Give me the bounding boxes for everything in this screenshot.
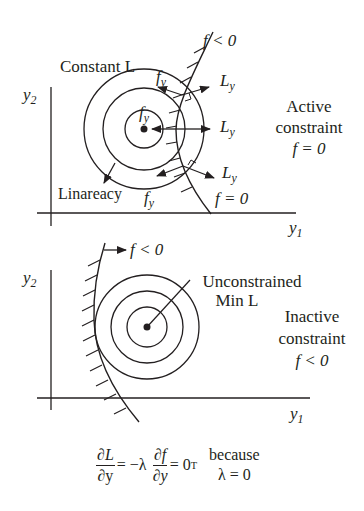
top-fy-label-lower: fy [144, 189, 154, 209]
bottom-axis-y-sub: 2 [31, 276, 37, 290]
Ly-sub: y [229, 125, 234, 139]
Ly-sub: y [231, 171, 236, 185]
fy-sub: y [144, 111, 149, 125]
bottom-min-leader-line [147, 280, 190, 327]
top-minimum-dot [141, 126, 148, 133]
top-axis-y-var: y [23, 85, 31, 104]
top-fy-label-upper: fy [156, 68, 166, 88]
top-axis-x-sub: 1 [297, 226, 303, 240]
top-fy-label-center: fy [139, 104, 149, 124]
status-f-lt-0: f < 0 [268, 350, 356, 372]
because-block: because λ = 0 [209, 445, 260, 485]
lambda-zero: λ = 0 [209, 465, 260, 485]
bottom-axis-y-var: y [23, 268, 31, 287]
top-axis-y-sub: 2 [31, 93, 37, 107]
top-status-block: Active constraint f = 0 [268, 96, 350, 159]
top-title-label: Constant L [60, 58, 135, 75]
top-Ly-label-middle: Ly [220, 118, 235, 138]
kkt-equation: ∂L ∂y = −λ ∂f ∂y = 0T because λ = 0 [96, 445, 260, 485]
status-f-eq-0: f = 0 [268, 138, 350, 159]
bottom-axis-x-var: y [290, 404, 298, 423]
because-text: because [209, 445, 260, 465]
top-infeasible-label: f < 0 [203, 32, 236, 49]
transpose-T: T [191, 460, 197, 471]
top-axis-x-var: y [289, 218, 297, 237]
dy-2: ∂y [153, 466, 168, 485]
bottom-axis-y1-label: y1 [290, 405, 304, 425]
status-active: Active [268, 96, 350, 117]
df-dy-fraction: ∂f ∂y [153, 446, 168, 485]
bottom-infeasible-label: f < 0 [130, 241, 163, 258]
top-Ly-label-lower: Ly [222, 164, 237, 184]
bottom-axis-x-sub: 1 [298, 412, 304, 426]
bottom-min-label: Unconstrained Min L [193, 272, 311, 310]
min-unconstrained: Unconstrained [193, 272, 311, 291]
top-Ly-label-upper: Ly [220, 72, 235, 92]
dL-dy-fraction: ∂L ∂y [96, 446, 115, 485]
status-constraint: constraint [268, 117, 350, 138]
dL: ∂L [96, 446, 115, 466]
df: ∂f [153, 446, 167, 466]
top-boundary-label: f = 0 [215, 190, 248, 207]
eq-zero: = 0 [170, 456, 191, 474]
diagram-canvas [0, 0, 364, 511]
eq-neg-lambda: = −λ [117, 456, 147, 474]
Ly-sub: y [229, 79, 234, 93]
fy-sub: y [149, 196, 154, 210]
bottom-status-block: Inactive constraint f < 0 [268, 306, 356, 372]
top-axes [37, 87, 296, 226]
bottom-axis-y2-label: y2 [23, 269, 37, 289]
status-constraint: constraint [268, 328, 356, 350]
status-inactive: Inactive [268, 306, 356, 328]
top-axis-y1-label: y1 [289, 219, 303, 239]
dy: ∂y [97, 466, 113, 485]
top-linearity-label: Linareacy [58, 186, 122, 202]
top-constraint-curve [176, 32, 213, 214]
top-axis-y2-label: y2 [23, 86, 37, 106]
bottom-constraint-curve [94, 243, 139, 422]
fy-sub: y [161, 75, 166, 89]
